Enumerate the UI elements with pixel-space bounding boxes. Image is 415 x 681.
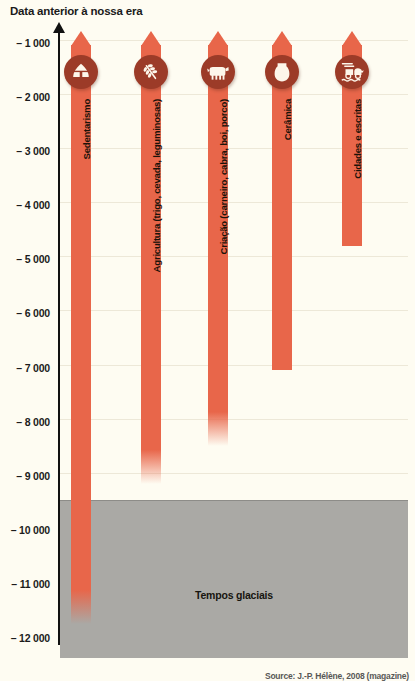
y-axis-tick-label: – 3 000 — [16, 145, 55, 157]
y-axis-tick-7000: – 7 000 — [0, 358, 55, 376]
y-axis-tick-3000: – 3 000 — [0, 141, 55, 159]
gridline — [60, 256, 408, 257]
y-axis-tick-label: – 2 000 — [16, 91, 55, 103]
y-axis-tick-label: – 11 000 — [11, 578, 55, 590]
y-axis-tick-9000: – 9 000 — [0, 466, 55, 484]
bar-body — [208, 45, 228, 445]
gridline — [60, 473, 408, 474]
gridline — [60, 419, 408, 420]
glacial-period-band: Tempos glaciais — [60, 500, 408, 658]
gridline — [60, 310, 408, 311]
bar-body — [272, 45, 292, 370]
y-axis-tick-4000: – 4 000 — [0, 195, 55, 213]
y-axis-tick-11000: – 11 000 — [0, 574, 55, 592]
bar-body — [141, 45, 161, 483]
y-axis-tick-5000: – 5 000 — [0, 249, 55, 267]
y-axis-tick-label: – 10 000 — [11, 524, 55, 536]
y-axis-tick-label: – 7 000 — [16, 362, 55, 374]
bar-4[interactable]: Cerâmica — [272, 31, 292, 370]
bar-3[interactable]: Criação (carneiro, cabra, boi, porco) — [208, 31, 228, 445]
hut-icon — [64, 55, 98, 89]
y-axis-tick-10000: – 10 000 — [0, 520, 55, 538]
page-title: Data anterior à nossa era — [10, 5, 142, 17]
source-note: Source: J.-P. Hélène, 2008 (magazine) — [265, 671, 409, 681]
bar-body — [71, 45, 91, 624]
gridline — [60, 365, 408, 366]
bar-tip-icon — [272, 31, 292, 46]
y-axis-tick-label: – 5 000 — [16, 253, 55, 265]
glacial-period-label: Tempos glaciais — [60, 589, 408, 601]
livestock-icon — [201, 55, 235, 89]
y-axis-tick-label: – 6 000 — [16, 307, 55, 319]
bar-5[interactable]: Cidades e escritas — [342, 31, 362, 245]
y-axis-tick-8000: – 8 000 — [0, 412, 55, 430]
y-axis-tick-label: – 12 000 — [11, 632, 55, 644]
bar-tip-icon — [342, 31, 362, 46]
y-axis-tick-1000: – 1 000 — [0, 33, 55, 51]
y-axis-tick-label: – 9 000 — [16, 470, 55, 482]
plot-area: Tempos glaciais SedentarismoAgricultura … — [60, 30, 408, 645]
wheat-icon — [134, 55, 168, 89]
bar-tip-icon — [141, 31, 161, 46]
bar-tip-icon — [208, 31, 228, 46]
y-axis-tick-label: – 1 000 — [16, 37, 55, 49]
y-axis-tick-6000: – 6 000 — [0, 303, 55, 321]
bar-tip-icon — [71, 31, 91, 46]
y-axis-tick-label: – 8 000 — [16, 416, 55, 428]
bar-2[interactable]: Agricultura (trigo, cevada, leguminosas) — [141, 31, 161, 483]
y-axis-tick-2000: – 2 000 — [0, 87, 55, 105]
y-axis-tick-label: – 4 000 — [16, 199, 55, 211]
chariot-icon — [335, 55, 369, 89]
bar-1[interactable]: Sedentarismo — [71, 31, 91, 624]
y-axis-tick-12000: – 12 000 — [0, 628, 55, 646]
pottery-icon — [265, 55, 299, 89]
